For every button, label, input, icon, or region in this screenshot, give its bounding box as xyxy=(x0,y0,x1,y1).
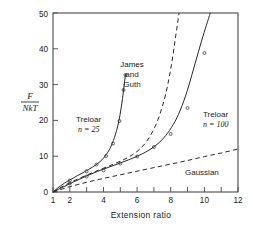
curve-treloar-100 xyxy=(53,13,210,192)
plot-frame xyxy=(53,13,238,192)
y-tick-labels: 0 10 20 30 40 50 xyxy=(39,10,49,198)
x-tick-label-12: 12 xyxy=(233,196,243,205)
y-axis-numerator: F xyxy=(26,91,33,101)
y-tick-label-30: 30 xyxy=(39,81,49,90)
y-axis-denominator: NkT xyxy=(21,103,38,113)
y-tick-label-20: 20 xyxy=(39,116,49,125)
x-tick-label-6: 6 xyxy=(135,196,140,205)
annotation-james-guth-line2: and xyxy=(125,70,138,79)
x-tick-label-1: 1 xyxy=(51,196,56,205)
annotation-james-guth-line1: James xyxy=(120,60,144,69)
annotation-treloar-100-line1: Treloar xyxy=(203,110,228,119)
x-tick-label-8: 8 xyxy=(168,196,173,205)
y-tick-label-40: 40 xyxy=(39,45,49,54)
y-tick-label-10: 10 xyxy=(39,152,49,161)
annotation-treloar-100: Treloar n = 100 xyxy=(203,110,228,129)
plot-area: 0 10 20 30 40 50 1 2 4 6 8 10 12 Extensi… xyxy=(0,0,253,229)
x-axis-title: Extension ratio xyxy=(111,210,172,220)
chart-figure: 0 10 20 30 40 50 1 2 4 6 8 10 12 Extensi… xyxy=(0,0,253,229)
annotation-gaussian: Gaussian xyxy=(185,168,219,177)
y-axis-title: F NkT xyxy=(21,91,39,113)
annotation-treloar-100-line2: n = 100 xyxy=(203,120,228,129)
x-axis-ticks xyxy=(53,187,238,192)
x-tick-label-4: 4 xyxy=(101,196,106,205)
annotation-treloar-25: Treloar n = 25 xyxy=(76,115,101,134)
y-axis-ticks xyxy=(53,13,58,192)
x-tick-label-10: 10 xyxy=(200,196,210,205)
annotation-treloar-25-line1: Treloar xyxy=(76,115,101,124)
annotation-james-guth-line3: Guth xyxy=(123,80,140,89)
y-tick-label-0: 0 xyxy=(43,188,48,197)
x-tick-labels: 1 2 4 6 8 10 12 xyxy=(51,196,243,205)
annotation-treloar-25-line2: n = 25 xyxy=(78,125,99,134)
x-tick-label-2: 2 xyxy=(68,196,73,205)
curve-james-guth xyxy=(53,13,179,192)
y-tick-label-50: 50 xyxy=(39,10,49,19)
